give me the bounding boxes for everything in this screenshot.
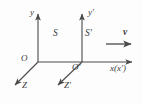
reference-frames-diagram: y y' S S' O O' x(x') Z Z' v <box>0 0 143 104</box>
y-axis-label: y <box>30 8 34 17</box>
x-axis-label: x(x') <box>110 64 126 73</box>
frame-s-prime-label: S' <box>85 29 92 39</box>
origin-label: O <box>21 54 28 63</box>
z-prime-axis-label: Z' <box>64 81 71 90</box>
velocity-label: v <box>123 28 127 38</box>
z-axis-label: Z <box>22 81 27 90</box>
y-prime-axis-label: y' <box>88 8 94 17</box>
frame-s-label: S <box>53 29 58 39</box>
origin-prime-label: O' <box>72 63 80 72</box>
